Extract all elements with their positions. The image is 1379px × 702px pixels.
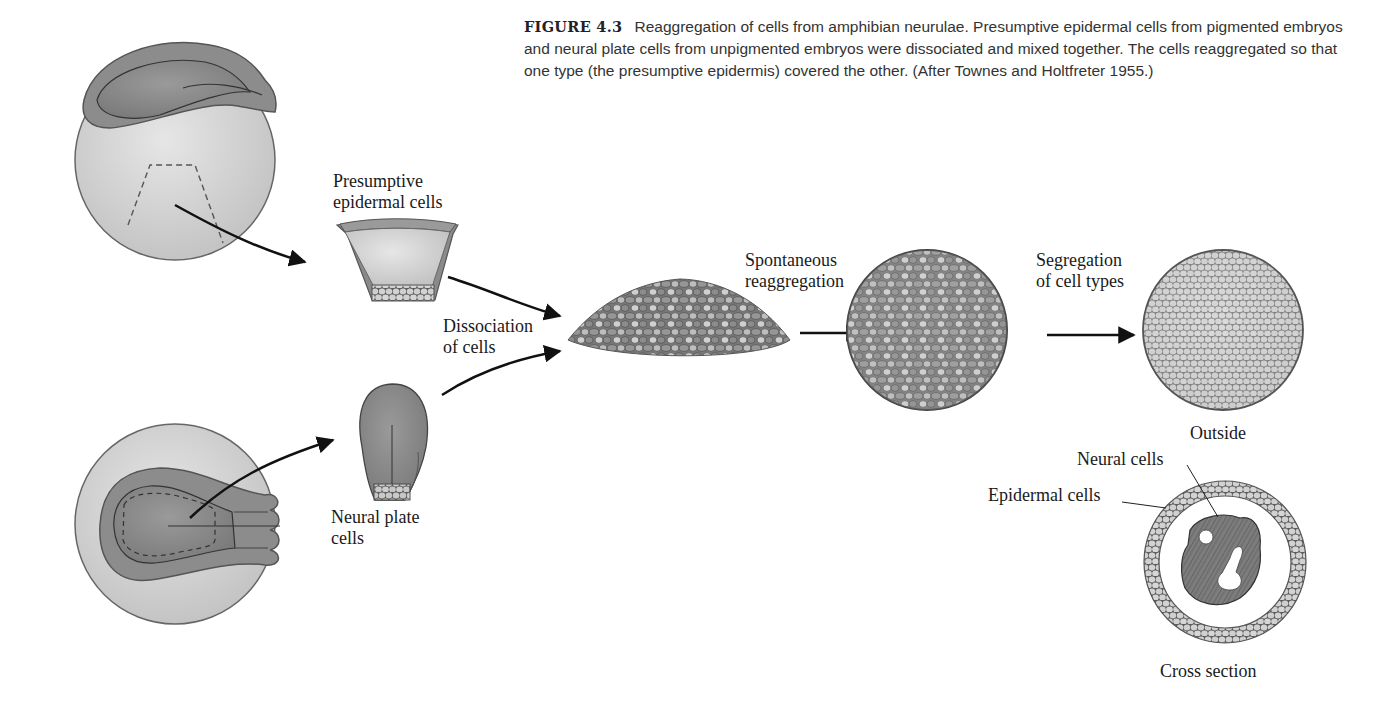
label-outside: Outside	[1190, 423, 1246, 444]
arrow-epidermal-to-pile	[448, 277, 560, 316]
figure-4-3: FIGURE 4.3Reaggregation of cells from am…	[0, 0, 1379, 702]
cross-section-icon	[1144, 481, 1306, 643]
label-neural-plate: Neural plate cells	[331, 507, 419, 549]
label-presumptive-epidermal: Presumptive epidermal cells	[333, 171, 442, 213]
label-neural-cells: Neural cells	[1077, 449, 1163, 470]
unpigmented-embryo-icon	[75, 424, 280, 624]
label-spontaneous-reaggregation: Spontaneous reaggregation	[745, 250, 844, 292]
segregated-sphere-outside-icon	[1143, 250, 1303, 410]
diagram-illustration	[0, 0, 1379, 702]
label-epidermal-cells: Epidermal cells	[988, 485, 1100, 506]
neural-plate-piece-icon	[360, 384, 428, 500]
mixed-aggregate-sphere-icon	[847, 250, 1007, 410]
epidermal-tissue-piece-icon	[337, 219, 458, 301]
label-segregation: Segregation of cell types	[1036, 250, 1124, 292]
label-dissociation: Dissociation of cells	[443, 316, 533, 358]
label-cross-section: Cross section	[1160, 661, 1257, 682]
epidermal-cells-leader-line	[1122, 502, 1166, 508]
pigmented-embryo-icon	[75, 42, 276, 260]
